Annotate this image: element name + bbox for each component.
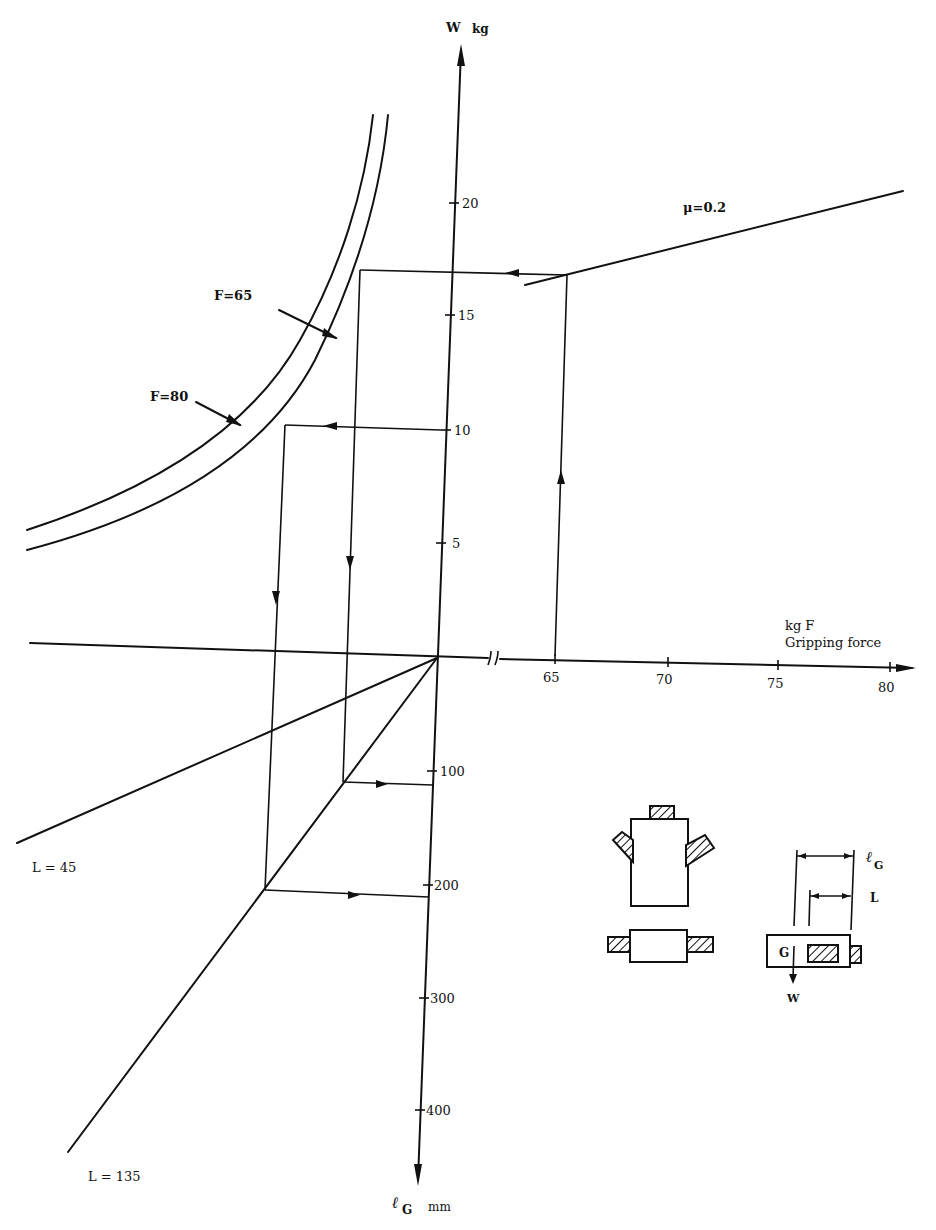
ray-l135: [68, 658, 437, 1152]
lg-tick-100: 100: [440, 764, 465, 779]
lg-tick-300: 300: [430, 991, 455, 1006]
arrow-up-icon: [557, 470, 565, 484]
force-tick-75: 75: [767, 676, 784, 691]
example-path-1: [343, 269, 567, 788]
vertical-axis: [414, 44, 465, 1186]
label-l45: L = 45: [32, 860, 76, 875]
svg-text:G: G: [402, 1203, 412, 1217]
arrow-down-icon: [789, 974, 797, 984]
lg-tick-400: 400: [426, 1103, 451, 1118]
svg-text:ℓ: ℓ: [866, 848, 872, 866]
axis-break-icon: [488, 651, 498, 665]
force-tick-80: 80: [878, 680, 895, 695]
w-tick-5: 5: [452, 536, 460, 551]
gripper-sketch-side: [608, 930, 713, 962]
label-f65: F=65: [214, 288, 252, 303]
w-tick-20: 20: [462, 196, 479, 211]
w-axis-ticks: 20 15 10 5: [436, 196, 479, 551]
arrow-down-icon: [414, 1164, 422, 1186]
label-f80: F=80: [150, 389, 188, 404]
horizontal-axis: 65 70 75 80: [30, 643, 916, 695]
gripping-force-nomogram: 20 15 10 5 W kg 100 200 300 400 ℓ G mm 6…: [0, 0, 936, 1230]
svg-text:G: G: [874, 859, 883, 872]
arrow-down-icon: [346, 556, 354, 570]
svg-text:L: L: [870, 891, 879, 905]
lg-axis-label: ℓ G mm: [391, 1193, 451, 1217]
gripper-sketch-dimensions: ℓ G L G W: [767, 848, 883, 1005]
label-mu: μ=0.2: [683, 200, 726, 215]
force-axis-title: Gripping force: [785, 635, 882, 650]
curve-f80: [27, 115, 373, 530]
w-axis-unit: kg: [472, 22, 489, 36]
label-g: G: [779, 946, 789, 960]
label-w: W: [786, 992, 800, 1005]
force-tick-70: 70: [656, 672, 673, 687]
w-tick-10: 10: [454, 423, 471, 438]
label-l135: L = 135: [88, 1169, 141, 1184]
force-axis-unit: kg F: [785, 618, 814, 633]
arrow-left-icon: [323, 422, 337, 430]
force-tick-65: 65: [543, 670, 560, 685]
f-curves: [27, 115, 388, 550]
w-tick-15: 15: [458, 308, 475, 323]
arrow-right-icon: [376, 780, 388, 788]
svg-text:ℓ: ℓ: [391, 1193, 399, 1212]
gripper-sketch-front: [613, 806, 714, 906]
arrow-down-icon: [272, 591, 280, 605]
arrow-right-icon: [896, 664, 916, 672]
ray-l45: [17, 658, 437, 843]
lg-tick-200: 200: [434, 878, 459, 893]
arrow-left-icon: [505, 269, 519, 277]
w-axis-symbol: W: [445, 20, 461, 35]
svg-text:mm: mm: [428, 1200, 451, 1214]
arrow-up-icon: [457, 44, 465, 66]
curve-f65: [27, 115, 388, 550]
arrow-right-icon: [348, 891, 360, 899]
